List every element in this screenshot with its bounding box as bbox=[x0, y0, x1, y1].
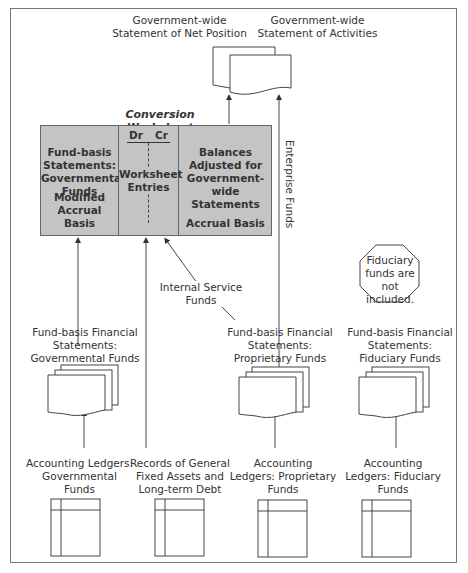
ledger-proprietary-icon bbox=[258, 500, 307, 557]
label-ledger-fiduciary: Accounting Ledgers: Fiduciary Funds bbox=[338, 457, 448, 496]
col3-bottom-text: Accrual Basis bbox=[179, 217, 272, 230]
col1-bottom-text: Modified Accrual Basis bbox=[41, 191, 118, 230]
cr-label: Cr bbox=[155, 129, 168, 142]
col3-top-text: Balances Adjusted for Government-wide St… bbox=[179, 146, 272, 211]
label-internal-service-funds: Internal Service Funds bbox=[156, 281, 246, 307]
worksheet-col-entries: Dr Cr Worksheet Entries bbox=[119, 126, 179, 235]
label-ledger-general-fixed: Records of General Fixed Assets and Long… bbox=[130, 457, 230, 496]
label-statements-fiduciary: Fund-basis Financial Statements: Fiducia… bbox=[340, 326, 460, 365]
col2-top-text: Worksheet Entries bbox=[119, 168, 178, 194]
conversion-worksheet: Fund-basis Statements: Governmental Fund… bbox=[40, 125, 272, 236]
label-ledger-proprietary: Accounting Ledgers: Proprietary Funds bbox=[228, 457, 338, 496]
ledger-fiduciary-icon bbox=[362, 500, 411, 557]
worksheet-col-fund-basis: Fund-basis Statements: Governmental Fund… bbox=[41, 126, 119, 235]
label-statements-governmental: Fund-basis Financial Statements: Governm… bbox=[25, 326, 145, 365]
label-ledger-governmental: Accounting Ledgers: Governmental Funds bbox=[22, 457, 137, 496]
label-statements-proprietary: Fund-basis Financial Statements: Proprie… bbox=[220, 326, 340, 365]
label-fiduciary-note: Fiduciary funds are not included. bbox=[360, 254, 420, 306]
ledger-general-fixed-icon bbox=[155, 499, 204, 556]
dr-cr-header: Dr Cr bbox=[127, 129, 170, 143]
dr-label: Dr bbox=[129, 129, 143, 142]
label-net-position: Government-wide Statement of Net Positio… bbox=[112, 14, 247, 40]
fiduciary-statements-stack-icon bbox=[359, 367, 429, 417]
governmental-statements-stack-icon bbox=[48, 365, 118, 415]
gov-wide-statements-icon bbox=[213, 47, 291, 94]
worksheet-col-balances: Balances Adjusted for Government-wide St… bbox=[179, 126, 272, 235]
label-enterprise-funds: Enterprise Funds bbox=[284, 140, 296, 228]
ledger-governmental-icon bbox=[51, 499, 100, 556]
label-activities: Government-wide Statement of Activities bbox=[255, 14, 380, 40]
proprietary-statements-stack-icon bbox=[239, 367, 309, 417]
